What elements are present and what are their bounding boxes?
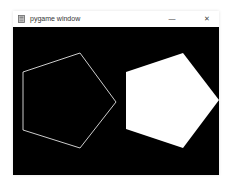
window-title: pygame window [30,14,80,23]
title-bar[interactable]: pygame window — ✕ [13,11,219,27]
game-canvas[interactable] [13,27,219,175]
pentagon-outline [23,53,116,148]
minimize-button[interactable]: — [161,11,183,27]
pygame-icon [18,15,25,23]
pygame-window: pygame window — ✕ [13,11,219,175]
shapes-layer [13,27,219,175]
close-button[interactable]: ✕ [196,11,218,27]
pentagon-filled [126,53,219,148]
